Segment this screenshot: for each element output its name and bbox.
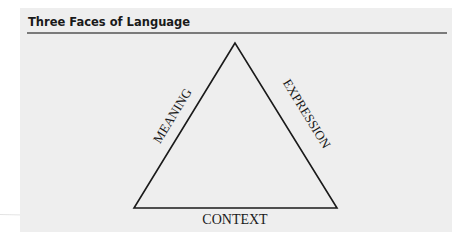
label-context: CONTEXT — [202, 212, 268, 227]
label-meaning: MEANING — [150, 86, 195, 146]
label-expression: EXPRESSION — [280, 76, 334, 151]
triangle-diagram: MEANING EXPRESSION CONTEXT — [0, 0, 470, 240]
